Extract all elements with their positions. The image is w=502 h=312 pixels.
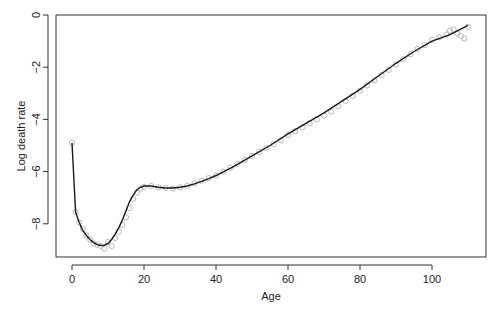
x-tick-label: 40 [210,273,222,285]
x-tick-label: 20 [138,273,150,285]
y-axis-label: Log death rate [15,101,27,172]
line-chart: 020406080100 0−2−4−6−8 Age Log death rat… [0,0,502,312]
x-tick-label: 80 [354,273,366,285]
data-point [102,246,107,251]
x-tick-label: 100 [423,273,441,285]
data-point [458,33,463,38]
fit-line [72,25,468,245]
plot-frame [56,15,486,257]
x-axis-label: Age [261,290,281,302]
data-point [109,243,114,248]
data-point [462,36,467,41]
x-axis: 020406080100 [69,265,441,285]
y-axis: 0−2−4−6−8 [30,12,48,230]
x-tick-label: 60 [282,273,294,285]
y-tick-label: −6 [30,165,42,178]
y-tick-label: 0 [30,12,42,18]
x-tick-label: 0 [69,273,75,285]
data-points [69,24,470,251]
y-tick-label: −2 [30,61,42,74]
y-tick-label: −4 [30,113,42,126]
y-tick-label: −8 [30,218,42,231]
